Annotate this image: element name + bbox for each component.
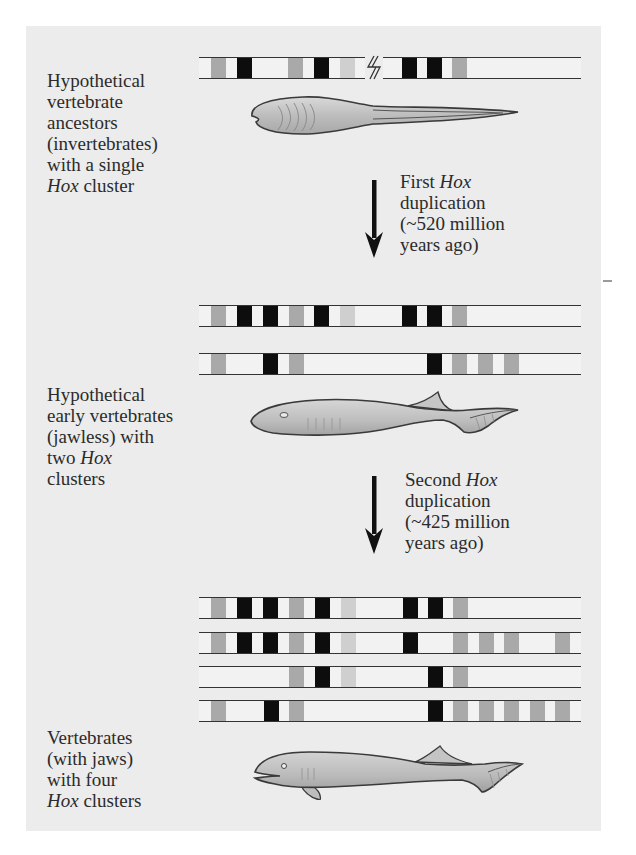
- jawless-fish-icon: [248, 388, 524, 440]
- hox-gene-gray: [453, 701, 468, 721]
- hox-gene-black: [315, 667, 330, 687]
- hox-gene-light: [341, 598, 356, 618]
- hox-gene-gray: [479, 701, 494, 721]
- hox-gene-gray: [211, 701, 226, 721]
- down-arrow-icon: [364, 476, 384, 556]
- jawed-label-line: (with jaws): [47, 748, 141, 769]
- hox-gene-black: [428, 598, 443, 618]
- hox-gene-black: [428, 701, 443, 721]
- jawless-label-line: (jawless) with: [47, 426, 173, 447]
- hox-gene-black: [263, 633, 278, 653]
- duplication-label-line: years ago): [400, 234, 505, 255]
- label-text: Second: [405, 469, 466, 490]
- hox-gene-black: [315, 633, 330, 653]
- hox-term: Hox: [47, 790, 79, 811]
- hox-gene-black: [263, 598, 278, 618]
- hox-gene-black: [427, 354, 442, 374]
- hox-gene-black: [264, 701, 279, 721]
- hox-gene-black: [237, 633, 252, 653]
- chromosome-break-icon: [365, 54, 383, 82]
- label-text: clusters: [79, 790, 142, 811]
- hox-gene-gray: [504, 701, 519, 721]
- ancestor-label-line: Hox cluster: [47, 175, 158, 196]
- hox-gene-gray: [453, 633, 468, 653]
- label-text: two: [47, 447, 80, 468]
- hox-gene-black: [237, 306, 252, 326]
- hox-gene-gray: [452, 58, 467, 78]
- jawed-label-line: with four: [47, 769, 141, 790]
- down-arrow-icon: [364, 180, 384, 260]
- ancestor-label-line: Hypothetical: [47, 70, 158, 91]
- hox-gene-gray: [452, 354, 467, 374]
- hox-gene-gray: [289, 306, 304, 326]
- ancestor-label: Hypothetical vertebrate ancestors (inver…: [47, 70, 158, 196]
- hox-gene-black: [315, 598, 330, 618]
- hox-gene-gray: [289, 667, 304, 687]
- duplication-label-line: (~520 million: [400, 213, 505, 234]
- hox-gene-gray: [555, 701, 570, 721]
- hox-term: Hox: [440, 171, 472, 192]
- hox-gene-black: [402, 306, 417, 326]
- edge-mark: [603, 280, 612, 282]
- jawless-label: Hypothetical early vertebrates (jawless)…: [47, 384, 173, 489]
- hox-gene-black: [314, 306, 329, 326]
- duplication-label-line: years ago): [405, 532, 510, 553]
- hox-gene-light: [340, 306, 355, 326]
- hox-gene-black: [263, 306, 278, 326]
- hox-cluster: [199, 57, 581, 79]
- hox-term: Hox: [80, 447, 112, 468]
- hox-cluster: [199, 632, 581, 654]
- hox-gene-gray: [211, 306, 226, 326]
- hox-gene-black: [237, 58, 252, 78]
- hox-gene-black: [403, 633, 418, 653]
- jawed-label-line: Vertebrates: [47, 727, 141, 748]
- hox-gene-light: [340, 58, 355, 78]
- hox-gene-black: [237, 598, 252, 618]
- ancestor-label-line: vertebrate: [47, 91, 158, 112]
- amphioxus-like-invertebrate-icon: [248, 92, 524, 138]
- ancestor-label-line: (invertebrates): [47, 133, 158, 154]
- jawed-label: Vertebrates (with jaws) with four Hox cl…: [47, 727, 141, 811]
- hox-cluster: [199, 353, 581, 375]
- duplication-label-line: (~425 million: [405, 511, 510, 532]
- hox-gene-gray: [452, 306, 467, 326]
- hox-gene-gray: [289, 354, 304, 374]
- hox-gene-black: [314, 58, 329, 78]
- hox-gene-gray: [479, 633, 494, 653]
- duplication-label-line: Second Hox: [405, 469, 510, 490]
- hox-gene-black: [403, 598, 418, 618]
- first-duplication-label: First Hox duplication (~520 million year…: [400, 171, 505, 255]
- hox-cluster: [199, 700, 581, 722]
- hox-gene-gray: [504, 354, 519, 374]
- hox-gene-gray: [555, 633, 570, 653]
- duplication-label-line: duplication: [405, 490, 510, 511]
- label-text: cluster: [79, 175, 134, 196]
- hox-gene-gray: [289, 701, 304, 721]
- jawless-label-line: early vertebrates: [47, 405, 173, 426]
- hox-gene-gray: [478, 354, 493, 374]
- hox-cluster: [199, 597, 581, 619]
- hox-gene-gray: [211, 354, 226, 374]
- jawed-label-line: Hox clusters: [47, 790, 141, 811]
- label-text: First: [400, 171, 440, 192]
- hox-gene-light: [341, 667, 356, 687]
- hox-gene-black: [427, 306, 442, 326]
- hox-gene-black: [428, 667, 443, 687]
- hox-cluster: [199, 666, 581, 688]
- hox-gene-light: [341, 633, 356, 653]
- hox-gene-black: [263, 354, 278, 374]
- hox-gene-gray: [530, 701, 545, 721]
- hox-gene-black: [427, 58, 442, 78]
- duplication-label-line: duplication: [400, 192, 505, 213]
- jawless-label-line: clusters: [47, 468, 173, 489]
- hox-gene-gray: [504, 633, 519, 653]
- hox-gene-gray: [289, 633, 304, 653]
- ancestor-label-line: with a single: [47, 154, 158, 175]
- ancestor-label-line: ancestors: [47, 112, 158, 133]
- hox-gene-gray: [211, 58, 226, 78]
- hox-gene-black: [402, 58, 417, 78]
- hox-term: Hox: [466, 469, 498, 490]
- hox-gene-gray: [453, 667, 468, 687]
- second-duplication-label: Second Hox duplication (~425 million yea…: [405, 469, 510, 553]
- hox-term: Hox: [47, 175, 79, 196]
